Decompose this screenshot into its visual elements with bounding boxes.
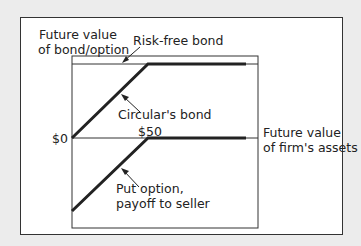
circular-label: Circular's bond: [118, 107, 212, 122]
zero-label: $0: [52, 131, 68, 146]
strike-label: $50: [138, 124, 162, 139]
put-label: Put option, payoff to seller: [116, 181, 210, 211]
y-axis-label: Future value of bond/option: [38, 27, 118, 57]
x-axis-label: Future value of firm's assets: [263, 125, 358, 155]
risk-free-label: Risk-free bond: [133, 33, 223, 48]
